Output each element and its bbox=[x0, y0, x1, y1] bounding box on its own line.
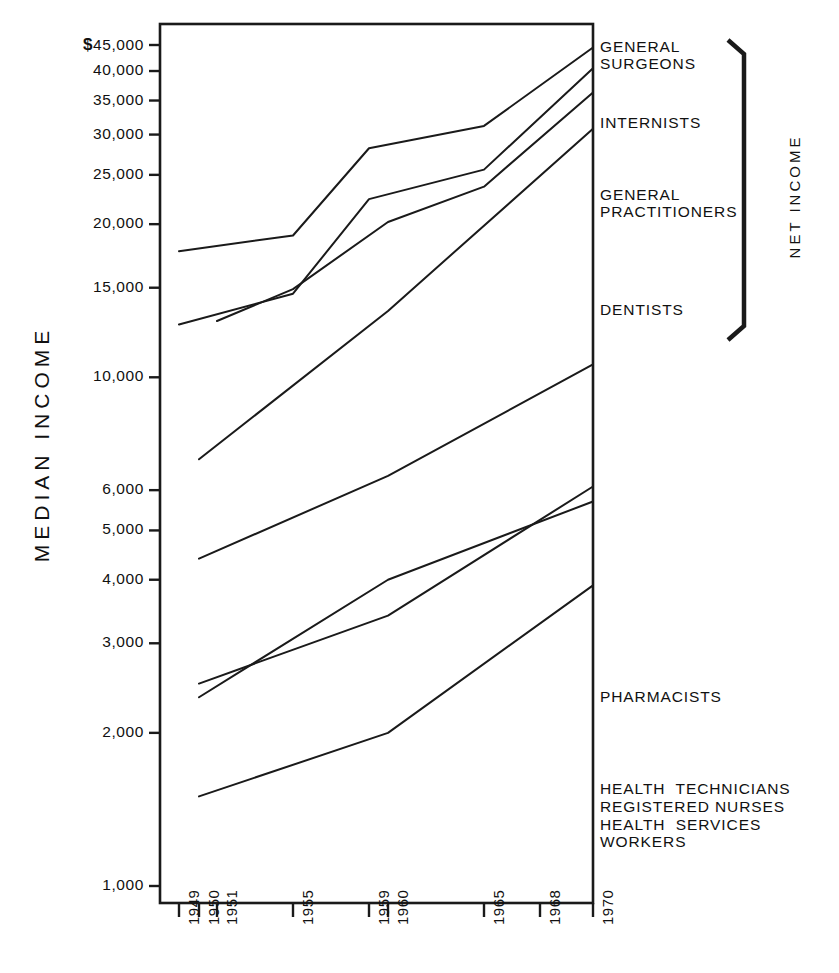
series-label-line: PRACTITIONERS bbox=[600, 203, 737, 220]
series-label-line: REGISTERED NURSES bbox=[600, 798, 785, 815]
y-tick-label: 25,000 bbox=[93, 165, 144, 183]
series-label: GENERALSURGEONS bbox=[600, 38, 696, 72]
plot-border bbox=[160, 24, 593, 903]
series-label: DENTISTS bbox=[600, 301, 684, 318]
y-tick-label: 35,000 bbox=[93, 91, 144, 109]
series-label-line: PHARMACISTS bbox=[600, 688, 722, 705]
data-lines bbox=[179, 47, 593, 796]
y-tick-label: 30,000 bbox=[93, 125, 144, 143]
series-line bbox=[199, 501, 593, 697]
x-tick-label: 1951 bbox=[223, 890, 240, 925]
series-line bbox=[179, 47, 593, 251]
series-label-line: DENTISTS bbox=[600, 301, 684, 318]
series-label: HEALTH SERVICESWORKERS bbox=[600, 816, 761, 850]
dollar-sign: $ bbox=[83, 35, 93, 54]
x-tick-label: 1965 bbox=[490, 890, 507, 925]
series-line bbox=[217, 92, 593, 321]
net-income-bracket-label: NET INCOME bbox=[786, 107, 803, 287]
y-tick-label: 40,000 bbox=[93, 61, 144, 79]
series-label-line: SURGEONS bbox=[600, 55, 696, 72]
series-line bbox=[199, 487, 593, 684]
x-tick-label: 1955 bbox=[299, 890, 316, 925]
series-label: HEALTH TECHNICIANS bbox=[600, 780, 791, 797]
x-tick-label: 1968 bbox=[546, 890, 563, 925]
y-tick-label: 4,000 bbox=[102, 570, 144, 588]
series-line bbox=[199, 129, 593, 460]
x-tick-label: 1949 bbox=[185, 890, 202, 925]
x-tick-label: 1970 bbox=[599, 890, 616, 925]
series-label: REGISTERED NURSES bbox=[600, 798, 785, 815]
x-tick-label: 1959 bbox=[375, 890, 392, 925]
plot-frame bbox=[160, 24, 593, 903]
y-tick-label: $45,000 bbox=[83, 35, 144, 55]
series-label-line: INTERNISTS bbox=[600, 114, 701, 131]
y-tick-label: 6,000 bbox=[102, 480, 144, 498]
x-tick-label: 1950 bbox=[205, 890, 222, 925]
y-tick-label: 3,000 bbox=[102, 633, 144, 651]
series-label-line: GENERAL bbox=[600, 186, 737, 203]
series-label-line: HEALTH SERVICES bbox=[600, 816, 761, 833]
chart-root: MEDIAN INCOME $45,00040,00035,00030,0002… bbox=[0, 0, 839, 973]
y-tick-label: 1,000 bbox=[102, 876, 144, 894]
y-tick-label: 5,000 bbox=[102, 520, 144, 538]
series-line bbox=[179, 68, 593, 324]
y-tick-label: 2,000 bbox=[102, 723, 144, 741]
series-label: PHARMACISTS bbox=[600, 688, 722, 705]
series-label-line: GENERAL bbox=[600, 38, 696, 55]
series-label-line: HEALTH TECHNICIANS bbox=[600, 780, 791, 797]
series-label: GENERALPRACTITIONERS bbox=[600, 186, 737, 220]
series-label-line: WORKERS bbox=[600, 833, 761, 850]
series-label: INTERNISTS bbox=[600, 114, 701, 131]
series-line bbox=[199, 585, 593, 796]
y-tick-label: 20,000 bbox=[93, 214, 144, 232]
y-tick-marks bbox=[149, 45, 160, 886]
y-tick-label: 15,000 bbox=[93, 278, 144, 296]
x-tick-label: 1960 bbox=[394, 890, 411, 925]
series-line bbox=[199, 364, 593, 558]
y-tick-label: 10,000 bbox=[93, 367, 144, 385]
